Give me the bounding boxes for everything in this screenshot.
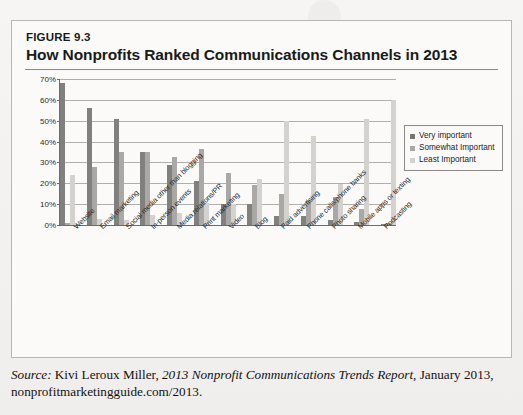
legend-label: Least Important	[419, 154, 476, 166]
legend-label: Very important	[419, 130, 472, 142]
bar-group	[87, 79, 102, 225]
bar	[391, 100, 396, 225]
source-prefix: Source:	[11, 367, 52, 382]
legend-item-somewhat-important: Somewhat Important	[410, 142, 495, 154]
bar-group	[274, 79, 289, 225]
bar	[311, 136, 316, 225]
figure-title: How Nonprofits Ranked Communications Cha…	[26, 45, 497, 64]
legend-item-very-important: Very important	[410, 130, 495, 142]
chart-legend: Very important Somewhat Important Least …	[404, 125, 503, 171]
source-report-title: 2013 Nonprofit Communications Trends Rep…	[162, 367, 413, 382]
bar	[70, 175, 75, 225]
legend-label: Somewhat Important	[419, 142, 495, 154]
figure-number: FIGURE 9.3	[26, 30, 497, 44]
bar	[284, 121, 289, 225]
figure-box: FIGURE 9.3 How Nonprofits Ranked Communi…	[11, 20, 512, 358]
legend-swatch-icon	[410, 158, 415, 163]
chart-area: 0%10%20%30%40%50%60%70% WebsiteEmail mar…	[12, 70, 513, 338]
legend-swatch-icon	[410, 134, 415, 139]
figure-header: FIGURE 9.3 How Nonprofits Ranked Communi…	[12, 21, 511, 64]
source-author: Kivi Leroux Miller,	[55, 367, 159, 382]
bar-group	[247, 79, 262, 225]
source-caption: Source: Kivi Leroux Miller, 2013 Nonprof…	[11, 366, 512, 400]
legend-item-least-important: Least Important	[410, 154, 495, 166]
bar	[60, 83, 65, 225]
bar-group	[60, 79, 75, 225]
y-axis-tick-mark	[57, 225, 60, 226]
legend-swatch-icon	[410, 146, 415, 151]
